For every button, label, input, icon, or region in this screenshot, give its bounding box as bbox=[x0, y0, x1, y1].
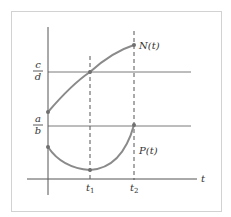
axis-label-t: t bbox=[201, 173, 206, 184]
tick-label-t2: t2 bbox=[130, 182, 139, 195]
curve-p-of-t bbox=[48, 125, 134, 170]
point-n-t2 bbox=[132, 43, 136, 47]
point-p-t2 bbox=[132, 123, 136, 127]
label-c: c bbox=[35, 59, 41, 70]
point-p-start bbox=[46, 145, 50, 149]
label-a: a bbox=[35, 113, 41, 124]
tick-label-t1: t1 bbox=[86, 182, 95, 195]
label-d: d bbox=[35, 71, 41, 82]
label-p-of-t: P(t) bbox=[138, 145, 158, 156]
curve-n-of-t bbox=[48, 45, 134, 112]
point-n-t1 bbox=[88, 70, 92, 74]
figure-frame bbox=[12, 12, 222, 212]
diagram-figure: N(t) P(t) c d a b t1 t2 t bbox=[0, 0, 231, 217]
label-b: b bbox=[35, 125, 41, 136]
label-n-of-t: N(t) bbox=[138, 40, 160, 51]
point-n-start bbox=[46, 110, 50, 114]
point-p-t1 bbox=[88, 168, 92, 172]
